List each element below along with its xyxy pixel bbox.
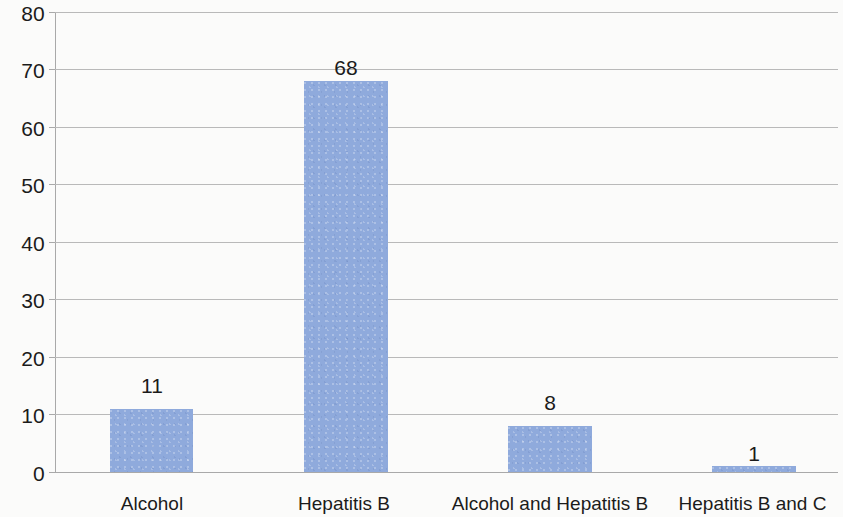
y-axis-tick-label: 20	[1, 348, 45, 369]
y-axis-tick-labels: 80 70 60 50 40 30 20 10 0	[0, 0, 45, 517]
y-axis-tick-label: 10	[1, 405, 45, 426]
x-axis-category-label: Hepatitis B	[248, 494, 440, 513]
y-axis-tick-label: 30	[1, 290, 45, 311]
gridline-30	[55, 299, 838, 300]
gridline-0-baseline	[55, 472, 838, 473]
y-axis-tick-label: 70	[1, 60, 45, 81]
bar-hepatitis-b[interactable]	[304, 81, 388, 472]
gridline-20	[55, 357, 838, 358]
y-axis-tick-label: 80	[1, 3, 45, 24]
y-axis-tick-label: 40	[1, 233, 45, 254]
bar-alcohol[interactable]	[110, 409, 193, 472]
x-axis-category-label: Hepatitis B and C	[660, 494, 843, 513]
plot-area	[55, 12, 838, 472]
bar-value-label: 11	[110, 375, 194, 396]
bar-chart: 80 70 60 50 40 30 20 10 0	[0, 0, 843, 517]
bar-alcohol-and-hepatitis-b[interactable]	[508, 426, 592, 472]
gridline-40	[55, 242, 838, 243]
y-axis-tick-label: 0	[1, 463, 45, 484]
x-axis-category-label: Alcohol and Hepatitis B	[450, 494, 650, 513]
gridline-60	[55, 127, 838, 128]
bar-value-label: 1	[712, 443, 796, 464]
bar-hepatitis-b-and-c[interactable]	[712, 466, 796, 472]
bar-value-label: 8	[508, 392, 592, 413]
gridline-70	[55, 69, 838, 70]
y-axis-tick-label: 60	[1, 118, 45, 139]
y-axis-tick-label: 50	[1, 175, 45, 196]
gridline-80	[55, 12, 838, 13]
gridline-50	[55, 184, 838, 185]
bar-value-label: 68	[304, 57, 388, 78]
x-axis-category-label: Alcohol	[56, 494, 248, 513]
